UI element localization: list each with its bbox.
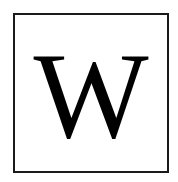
logo-frame: W	[13, 13, 169, 173]
logo-letter: W	[15, 15, 167, 171]
